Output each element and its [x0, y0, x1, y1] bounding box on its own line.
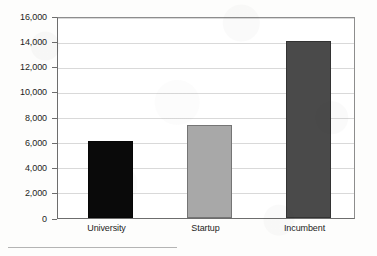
bar-chart-figure: 16,000 14,000 12,000 10,000 8,000 6,000 … [0, 0, 377, 256]
y-axis-label-4000: 4,000 [0, 164, 47, 173]
y-tick-mark-2000 [52, 193, 57, 194]
y-axis-label-6000: 6,000 [0, 139, 47, 148]
y-tick-mark-10000 [52, 92, 57, 93]
y-tick-mark-4000 [52, 168, 57, 169]
scan-edge-artifact [8, 247, 177, 248]
y-axis-label-16000: 16,000 [0, 13, 47, 22]
y-tick-mark-0 [52, 219, 57, 220]
y-axis-label-0: 0 [0, 215, 47, 224]
x-axis-label-incumbent: Incumbent [255, 224, 354, 233]
y-tick-mark-8000 [52, 118, 57, 119]
y-axis-label-12000: 12,000 [0, 63, 47, 72]
y-axis-label-14000: 14,000 [0, 38, 47, 47]
x-axis-label-university: University [57, 224, 156, 233]
y-axis-label-8000: 8,000 [0, 114, 47, 123]
y-tick-mark-12000 [52, 67, 57, 68]
bar-startup [187, 125, 232, 218]
y-axis-label-2000: 2,000 [0, 189, 47, 198]
plot-area [57, 17, 355, 219]
gridline-16000 [58, 18, 354, 19]
bar-university [88, 141, 133, 218]
y-axis-label-10000: 10,000 [0, 88, 47, 97]
y-tick-mark-16000 [52, 17, 57, 18]
x-axis-label-startup: Startup [156, 224, 255, 233]
y-tick-mark-14000 [52, 42, 57, 43]
bar-incumbent [286, 41, 331, 219]
y-tick-mark-6000 [52, 143, 57, 144]
